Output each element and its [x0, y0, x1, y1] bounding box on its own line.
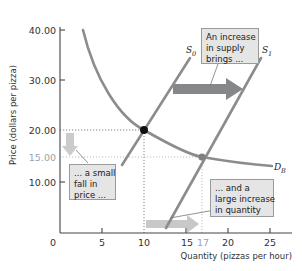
label-s1: S 1	[262, 45, 272, 58]
callout-quantity-increase: ... and a large increase in quantity	[210, 179, 274, 217]
y-tick-20: 20.00	[29, 125, 56, 136]
equilibrium-initial-point	[140, 126, 148, 134]
y-tick-10: 10.00	[29, 177, 56, 188]
y-tick-15: 15.00	[29, 152, 56, 163]
y-tick-40: 40.00	[29, 25, 56, 36]
y-tick-30: 30.00	[29, 75, 56, 86]
svg-text:0: 0	[192, 50, 196, 58]
x-tick-20: 20	[222, 237, 234, 248]
label-s0: S 0	[186, 45, 196, 58]
price-fall-arrow	[62, 133, 78, 156]
x-tick-5: 5	[99, 237, 105, 248]
callout-supply-increase: An increase in supply brings ...	[201, 28, 259, 64]
x-tick-15: 15	[181, 237, 193, 248]
x-tick-0: 0	[50, 237, 56, 248]
supply-increase-chart: 40.00 30.00 20.00 15.00 10.00 0 5 10 15 …	[0, 0, 302, 271]
svg-text:D: D	[273, 162, 281, 172]
x-tick-10: 10	[138, 237, 150, 248]
x-axis-title: Quantity (pizzas per hour)	[181, 251, 292, 261]
x-tick-25: 25	[264, 237, 276, 248]
equilibrium-new-point	[198, 153, 205, 160]
supply-shift-arrow	[173, 78, 243, 100]
y-axis-title: Price (dollars per pizza)	[8, 65, 18, 165]
callout-price-fall: ... a small fall in price ...	[69, 164, 116, 200]
label-db: D B	[273, 162, 286, 175]
x-tick-17: 17	[197, 237, 209, 248]
svg-text:1: 1	[268, 50, 272, 58]
svg-text:B: B	[280, 167, 286, 175]
